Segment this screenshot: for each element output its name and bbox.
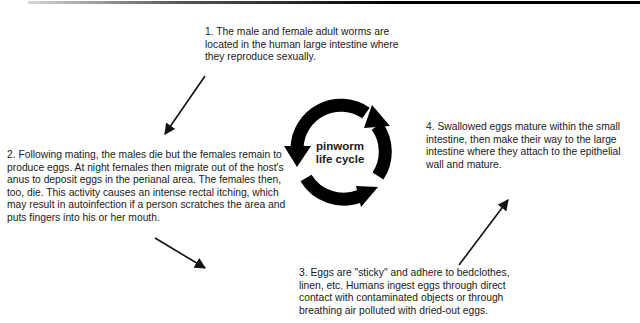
arrow-step2-to-step3-icon bbox=[155, 238, 205, 268]
cycle-center-label: pinworm life cycle bbox=[300, 140, 380, 166]
arrow-step1-to-step2-icon bbox=[165, 76, 205, 134]
arrow-step3-to-step4-icon bbox=[459, 200, 508, 265]
cycle-label-line1: pinworm bbox=[300, 140, 380, 153]
cycle-label-line2: life cycle bbox=[300, 153, 380, 166]
